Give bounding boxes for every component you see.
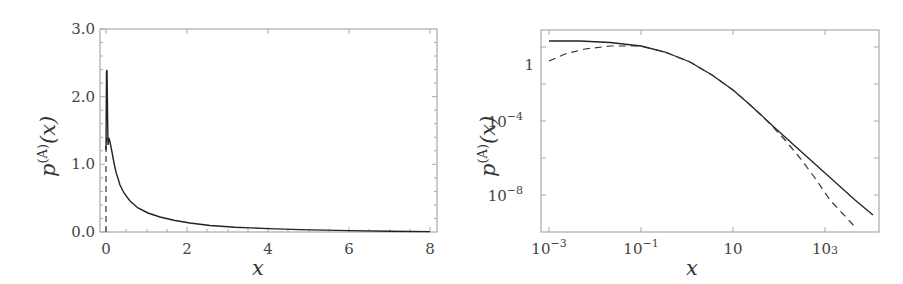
- right-chart: 1 10−4 10−8 10−3 10−1 10 103 x p(A)(x): [475, 30, 879, 280]
- right-solid-series: [549, 41, 873, 215]
- left-plot-frame: [100, 29, 437, 232]
- left-dashed-series: [106, 137, 107, 232]
- left-ytick-2: 2.0: [71, 88, 95, 106]
- left-ytick-1: 1.0: [71, 155, 95, 173]
- right-xlabel: x: [686, 256, 698, 280]
- left-ytick-3: 3.0: [71, 20, 95, 38]
- left-xtick-1: 2: [182, 240, 192, 258]
- right-xtick-1e-1: 10−1: [623, 237, 658, 258]
- right-ytick-1e-8: 10−8: [488, 184, 523, 205]
- svg-text:p(A)(x): p(A)(x): [475, 116, 500, 177]
- left-xtick-4: 8: [425, 240, 435, 258]
- left-xtick-3: 6: [344, 240, 354, 258]
- left-chart: 0.0 1.0 2.0 3.0 0 2 4 6 8 x p(A)(x): [35, 20, 437, 280]
- svg-text:p(A)(x): p(A)(x): [35, 116, 60, 177]
- left-xlabel: x: [252, 256, 264, 280]
- left-ylabel: p(A)(x): [35, 116, 60, 177]
- left-xtick-0: 0: [101, 240, 111, 258]
- left-solid-series: [106, 70, 430, 232]
- left-xtick-2: 4: [263, 240, 273, 258]
- figure: 0.0 1.0 2.0 3.0 0 2 4 6 8 x p(A)(x) 1 10…: [0, 0, 903, 284]
- right-xtick-1e3: 103: [812, 240, 838, 258]
- left-x-ticks: [106, 29, 430, 232]
- left-ytick-0: 0.0: [71, 223, 95, 241]
- right-y-ticks: [541, 47, 879, 195]
- right-xtick-10: 10: [723, 240, 742, 258]
- right-ytick-1: 1: [524, 56, 534, 74]
- right-plot-frame: [541, 30, 879, 232]
- left-y-ticks: [100, 29, 437, 232]
- right-xtick-1e-3: 10−3: [531, 237, 566, 258]
- right-ylabel: p(A)(x): [475, 116, 500, 177]
- right-dashed-series: [549, 46, 856, 228]
